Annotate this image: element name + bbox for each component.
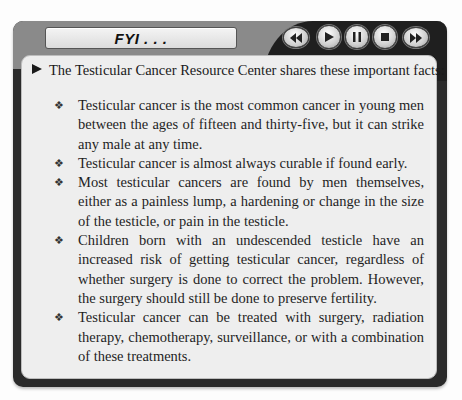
facts-list: ❖Testicular cancer is the most common ca… — [52, 96, 424, 366]
pause-icon — [353, 32, 361, 42]
fact-text: Testicular cancer is almost always curab… — [78, 155, 407, 171]
diamond-bullet-icon: ❖ — [52, 173, 66, 192]
list-item: ❖Testicular cancer is almost always cura… — [52, 154, 424, 173]
diamond-bullet-icon: ❖ — [52, 154, 66, 173]
intro-text: The Testicular Cancer Resource Center sh… — [49, 62, 445, 78]
diamond-bullet-icon: ❖ — [52, 96, 66, 115]
fast-forward-icon — [409, 33, 423, 43]
list-item: ❖Children born with an undescended testi… — [52, 231, 424, 308]
fact-text: Most testicular cancers are found by men… — [78, 174, 424, 229]
fast-forward-button[interactable] — [403, 27, 429, 48]
list-item: ❖Most testicular cancers are found by me… — [52, 173, 424, 231]
rewind-icon — [289, 33, 303, 43]
rewind-button[interactable] — [283, 27, 309, 48]
diamond-bullet-icon: ❖ — [52, 308, 66, 327]
stop-icon — [381, 33, 389, 41]
play-icon — [324, 32, 334, 42]
list-item: ❖Testicular cancer is the most common ca… — [52, 96, 424, 154]
pause-button[interactable] — [345, 25, 369, 49]
fact-text: Testicular cancer can be treated with su… — [78, 309, 424, 364]
diamond-bullet-icon: ❖ — [52, 231, 66, 250]
facts-content: The Testicular Cancer Resource Center sh… — [21, 55, 437, 379]
stop-button[interactable] — [373, 25, 397, 49]
play-button[interactable] — [317, 25, 341, 49]
fact-text: Children born with an undescended testic… — [78, 232, 424, 306]
arrow-right-icon — [32, 64, 42, 74]
list-item: ❖Testicular cancer can be treated with s… — [52, 308, 424, 366]
intro-line: The Testicular Cancer Resource Center sh… — [32, 62, 445, 79]
media-controls — [13, 25, 447, 51]
fyi-panel: FYI . . . The Testicular Cancer Resource… — [13, 21, 447, 387]
fact-text: Testicular cancer is the most common can… — [78, 97, 424, 152]
